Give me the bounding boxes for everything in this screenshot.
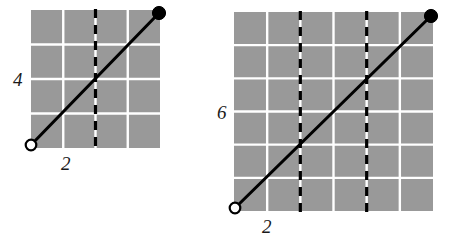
right-grid-diagram: 6 2 [200, 0, 455, 245]
open-circle-endpoint [230, 203, 241, 214]
left-x-axis-label: 2 [61, 154, 71, 173]
left-grid-svg [0, 0, 200, 180]
closed-circle-endpoint [424, 9, 437, 22]
right-y-axis-label: 6 [217, 103, 227, 122]
left-grid-diagram: 4 2 [0, 0, 200, 180]
closed-circle-endpoint [152, 6, 165, 19]
right-grid-svg [200, 0, 455, 245]
right-x-axis-label: 2 [262, 217, 272, 236]
left-y-axis-label: 4 [13, 70, 23, 89]
diagram-canvas: 4 2 6 2 [0, 0, 455, 245]
open-circle-endpoint [26, 140, 37, 151]
